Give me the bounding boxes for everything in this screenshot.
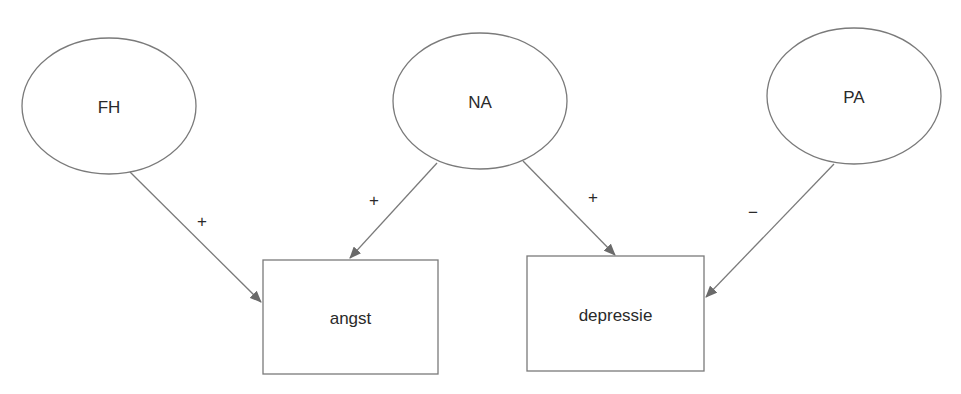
arrow-na-to-depressie <box>523 161 615 255</box>
node-label-angst: angst <box>330 309 372 329</box>
edge-sign-na-depressie: + <box>588 188 598 208</box>
edge-sign-fh-angst: + <box>197 212 207 232</box>
arrow-na-to-angst <box>350 163 437 258</box>
path-diagram <box>0 0 961 394</box>
edge-sign-pa-depressie: − <box>748 203 758 223</box>
node-label-fh: FH <box>98 98 121 118</box>
node-label-pa: PA <box>843 88 864 108</box>
edge-sign-na-angst: + <box>369 191 379 211</box>
node-label-depressie: depressie <box>579 306 653 326</box>
edges-layer <box>130 161 834 302</box>
arrow-pa-to-depressie <box>706 164 834 297</box>
node-label-na: NA <box>468 93 492 113</box>
arrow-fh-to-angst <box>130 172 261 302</box>
